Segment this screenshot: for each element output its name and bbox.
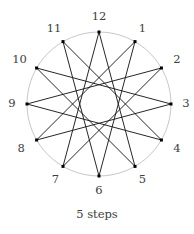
vertex-label-3: 3 xyxy=(182,96,189,110)
vertex-label-6: 6 xyxy=(95,183,102,197)
vertex-point-1 xyxy=(134,40,137,43)
vertex-label-12: 12 xyxy=(92,9,107,23)
vertex-point-8 xyxy=(35,139,38,142)
vertex-point-2 xyxy=(160,67,163,70)
vertex-label-2: 2 xyxy=(173,52,180,66)
vertex-point-7 xyxy=(62,165,65,168)
vertex-point-6 xyxy=(98,175,101,178)
star-polygon-figure: 123456789101112 5 steps xyxy=(0,0,194,234)
vertex-label-9: 9 xyxy=(8,96,15,110)
vertex-point-3 xyxy=(170,103,173,106)
vertex-point-4 xyxy=(160,139,163,142)
vertex-label-7: 7 xyxy=(52,172,59,186)
vertex-label-1: 1 xyxy=(139,21,146,35)
figure-background xyxy=(0,0,194,234)
star-polygon-canvas: 123456789101112 5 steps xyxy=(0,0,194,234)
vertex-point-5 xyxy=(134,165,137,168)
vertex-label-11: 11 xyxy=(47,21,62,35)
vertex-point-12 xyxy=(98,31,101,34)
vertex-label-5: 5 xyxy=(139,172,146,186)
vertex-point-10 xyxy=(35,67,38,70)
vertex-point-11 xyxy=(62,40,65,43)
vertex-label-4: 4 xyxy=(173,141,180,155)
vertex-label-8: 8 xyxy=(17,141,24,155)
figure-caption: 5 steps xyxy=(76,207,118,221)
vertex-label-10: 10 xyxy=(12,52,27,66)
vertex-point-9 xyxy=(26,103,29,106)
